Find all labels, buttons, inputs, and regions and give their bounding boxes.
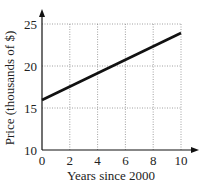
y-axis-arrow-icon: [39, 9, 45, 17]
y-tick-labels: 25 20 15 10: [24, 17, 37, 158]
x-tick-6: 6: [122, 153, 129, 168]
axes: [42, 14, 194, 150]
line-chart: 25 20 15 10 0 2 4 6 8 10 Years since 200…: [0, 0, 204, 184]
x-tick-4: 4: [94, 153, 101, 168]
y-tick-25: 25: [24, 17, 37, 32]
x-tick-10: 10: [175, 153, 188, 168]
y-tick-15: 15: [24, 101, 37, 116]
x-tick-labels: 0 2 4 6 8 10: [39, 153, 188, 168]
x-axis-arrow-icon: [191, 147, 199, 153]
y-tick-20: 20: [24, 59, 37, 74]
y-tick-10: 10: [24, 143, 37, 158]
y-axis-label: Price (thousands of $): [2, 31, 17, 145]
x-axis-label: Years since 2000: [67, 168, 155, 183]
price-line: [42, 33, 181, 100]
x-tick-2: 2: [67, 153, 74, 168]
x-tick-8: 8: [150, 153, 157, 168]
x-tick-0: 0: [39, 153, 46, 168]
